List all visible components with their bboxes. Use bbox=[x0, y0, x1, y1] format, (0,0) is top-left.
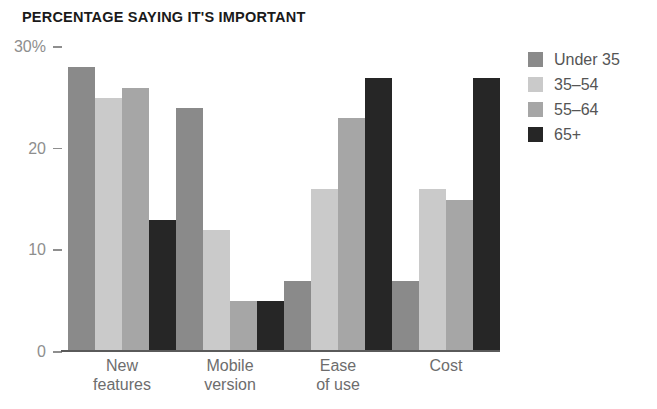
bar bbox=[311, 189, 338, 352]
x-axis-label-line: Mobile bbox=[176, 356, 284, 375]
bar bbox=[392, 281, 419, 352]
y-axis-tick-10-label: 10 bbox=[28, 241, 46, 258]
y-axis-tick-30-label: 30% bbox=[14, 38, 46, 55]
x-axis-label: Cost bbox=[392, 356, 500, 394]
bar bbox=[95, 98, 122, 352]
bar-chart: PERCENTAGE SAYING IT'S IMPORTANT 30% 20 … bbox=[0, 0, 657, 409]
bar-group bbox=[68, 47, 176, 352]
bar bbox=[203, 230, 230, 352]
legend-item[interactable]: 55–64 bbox=[528, 97, 620, 122]
bar bbox=[68, 67, 95, 352]
legend-swatch bbox=[528, 52, 543, 67]
x-axis-label-line: Ease bbox=[284, 356, 392, 375]
y-axis-tick-0: 0 bbox=[37, 343, 68, 361]
bar bbox=[122, 88, 149, 352]
bar-groups bbox=[68, 47, 500, 352]
chart-title: PERCENTAGE SAYING IT'S IMPORTANT bbox=[22, 9, 306, 25]
x-axis-baseline bbox=[61, 350, 500, 352]
chart-legend: Under 3535–5455–6465+ bbox=[528, 47, 620, 147]
bar bbox=[284, 281, 311, 352]
legend-swatch bbox=[528, 127, 543, 142]
y-axis-tick-30: 30% bbox=[14, 38, 68, 56]
bar bbox=[230, 301, 257, 352]
legend-swatch bbox=[528, 77, 543, 92]
x-axis-label: Mobileversion bbox=[176, 356, 284, 394]
bar bbox=[338, 118, 365, 352]
legend-item-label: 65+ bbox=[554, 126, 581, 144]
x-axis-label-line: version bbox=[176, 375, 284, 394]
y-axis-tick-10: 10 bbox=[28, 241, 68, 259]
bar bbox=[257, 301, 284, 352]
y-axis-tick-20: 20 bbox=[28, 140, 68, 158]
x-axis-label-line: of use bbox=[284, 375, 392, 394]
bar-group bbox=[392, 47, 500, 352]
y-axis-tick-30-dash bbox=[53, 46, 62, 48]
y-axis-tick-0-label: 0 bbox=[37, 343, 46, 360]
bar bbox=[149, 220, 176, 352]
legend-item-label: 55–64 bbox=[554, 101, 599, 119]
bar bbox=[446, 200, 473, 353]
legend-item[interactable]: 35–54 bbox=[528, 72, 620, 97]
y-axis-tick-20-dash bbox=[53, 148, 62, 150]
bar bbox=[365, 78, 392, 353]
legend-item-label: Under 35 bbox=[554, 51, 620, 69]
legend-item-label: 35–54 bbox=[554, 76, 599, 94]
y-axis-tick-20-label: 20 bbox=[28, 140, 46, 157]
x-axis-label: Newfeatures bbox=[68, 356, 176, 394]
bar-group bbox=[284, 47, 392, 352]
legend-swatch bbox=[528, 102, 543, 117]
bar bbox=[176, 108, 203, 352]
x-axis-label: Easeof use bbox=[284, 356, 392, 394]
plot-area: 30% 20 10 0 bbox=[68, 47, 500, 352]
bar bbox=[473, 78, 500, 353]
x-axis-labels: NewfeaturesMobileversionEaseof useCost bbox=[68, 356, 500, 394]
bar bbox=[419, 189, 446, 352]
legend-item[interactable]: Under 35 bbox=[528, 47, 620, 72]
x-axis-label-line: New bbox=[68, 356, 176, 375]
y-axis-tick-10-dash bbox=[53, 249, 62, 251]
x-axis-label-line: features bbox=[68, 375, 176, 394]
x-axis-label-line: Cost bbox=[392, 356, 500, 375]
legend-item[interactable]: 65+ bbox=[528, 122, 620, 147]
bar-group bbox=[176, 47, 284, 352]
